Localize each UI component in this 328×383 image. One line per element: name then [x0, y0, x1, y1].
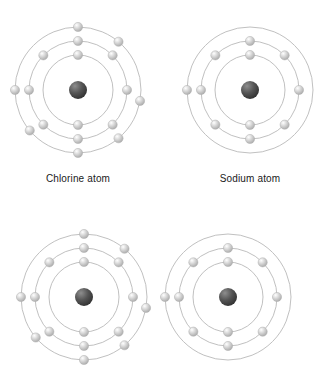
electron-shell3-2 — [120, 244, 129, 253]
electron-shell2-7 — [30, 292, 39, 301]
electron-shell2-3 — [122, 85, 131, 94]
electron-shell2-6 — [45, 327, 54, 336]
atom-sodium-bottom — [155, 224, 301, 370]
electron-shell1-1 — [73, 50, 82, 59]
electron-shell2-7 — [196, 85, 205, 94]
electron-shell3-1 — [79, 229, 88, 238]
atom-label-0: Chlorine atom — [0, 173, 158, 184]
electron-shell1-2 — [245, 120, 254, 129]
electron-shell3-5 — [79, 355, 88, 364]
electron-shell2-6 — [189, 327, 198, 336]
electron-shell2-4 — [114, 327, 123, 336]
electron-shell3-1 — [160, 292, 169, 301]
electron-shell2-1 — [245, 36, 254, 45]
electron-shell2-6 — [211, 120, 220, 129]
electron-shell2-1 — [73, 36, 82, 45]
electron-shell2-5 — [223, 341, 232, 350]
electron-shell1-1 — [223, 257, 232, 266]
electron-shell1-2 — [73, 120, 82, 129]
atom-chlorine-top — [5, 17, 151, 163]
electron-shell3-4 — [120, 341, 129, 350]
electron-shell2-4 — [280, 120, 289, 129]
electron-shell2-7 — [174, 292, 183, 301]
electron-shell2-5 — [79, 341, 88, 350]
electron-shell3-1 — [73, 22, 82, 31]
electron-shell3-5 — [73, 148, 82, 157]
atom-sodium-top — [177, 17, 323, 163]
electron-shell3-3 — [135, 96, 144, 105]
nucleus — [219, 288, 237, 306]
electron-shell2-2 — [258, 258, 267, 267]
electron-shell2-1 — [79, 243, 88, 252]
electron-shell1-2 — [223, 327, 232, 336]
electron-shell1-1 — [245, 50, 254, 59]
electron-shell3-7 — [10, 85, 19, 94]
atom-label-1: Sodium atom — [170, 173, 328, 184]
electron-shell2-8 — [189, 258, 198, 267]
electron-shell3-2 — [114, 37, 123, 46]
electron-shell1-2 — [79, 327, 88, 336]
electron-shell2-2 — [280, 51, 289, 60]
electron-shell2-4 — [108, 120, 117, 129]
electron-shell2-8 — [39, 51, 48, 60]
electron-shell1-1 — [79, 257, 88, 266]
electron-shell2-2 — [108, 51, 117, 60]
electron-shell2-3 — [128, 292, 137, 301]
electron-shell2-8 — [45, 258, 54, 267]
electron-shell2-6 — [39, 120, 48, 129]
electron-shell3-3 — [141, 303, 150, 312]
electron-shell2-4 — [258, 327, 267, 336]
electron-shell2-3 — [272, 292, 281, 301]
electron-shell3-6 — [25, 126, 34, 135]
electron-shell2-1 — [223, 243, 232, 252]
nucleus — [69, 81, 87, 99]
electron-shell2-5 — [245, 134, 254, 143]
electron-shell2-2 — [114, 258, 123, 267]
nucleus — [241, 81, 259, 99]
atom-chlorine-bottom — [11, 224, 157, 370]
nucleus — [75, 288, 93, 306]
electron-shell3-1 — [182, 85, 191, 94]
electron-shell2-3 — [294, 85, 303, 94]
electron-shell2-8 — [211, 51, 220, 60]
electron-shell3-6 — [31, 333, 40, 342]
electron-shell3-7 — [16, 292, 25, 301]
atom-diagram-canvas: Chlorine atomSodium atom — [0, 0, 328, 383]
electron-shell2-5 — [73, 134, 82, 143]
electron-shell2-7 — [24, 85, 33, 94]
electron-shell3-4 — [114, 134, 123, 143]
